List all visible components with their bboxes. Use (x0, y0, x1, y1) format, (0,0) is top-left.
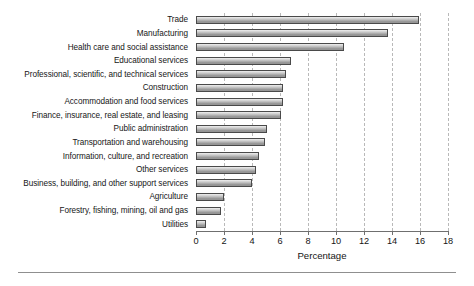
category-label: Public administration (114, 124, 189, 133)
category-label: Utilities (162, 220, 188, 229)
category-axis-labels: TradeManufacturingHealth care and social… (0, 13, 192, 231)
bar (196, 193, 224, 201)
category-label: Information, culture, and recreation (63, 152, 188, 161)
x-tick-label: 10 (324, 236, 348, 247)
category-label: Forestry, fishing, mining, oil and gas (59, 206, 188, 215)
category-label: Finance, insurance, real estate, and lea… (32, 111, 188, 120)
gridline (364, 13, 365, 231)
bar (196, 207, 221, 215)
category-label: Health care and social assistance (68, 43, 188, 52)
category-label: Construction (143, 83, 188, 92)
bar (196, 98, 283, 106)
x-tick-label: 18 (436, 236, 460, 247)
bar (196, 152, 259, 160)
x-tick (280, 231, 281, 235)
category-label: Manufacturing (137, 29, 188, 38)
category-label: Accommodation and food services (64, 97, 188, 106)
category-label: Trade (167, 15, 188, 24)
x-tick-label: 16 (408, 236, 432, 247)
x-tick (224, 231, 225, 235)
gridline (420, 13, 421, 231)
category-label: Transportation and warehousing (72, 138, 188, 147)
x-tick-label: 6 (268, 236, 292, 247)
x-tick (420, 231, 421, 235)
bar (196, 70, 286, 78)
x-tick-label: 0 (184, 236, 208, 247)
x-tick (336, 231, 337, 235)
x-tick-label: 2 (212, 236, 236, 247)
bar (196, 29, 388, 37)
x-tick (196, 231, 197, 235)
category-label: Business, building, and other support se… (23, 179, 188, 188)
bar (196, 166, 256, 174)
x-tick (448, 231, 449, 235)
bottom-divider-rule (18, 272, 456, 273)
bar (196, 57, 291, 65)
bar (196, 138, 265, 146)
bar (196, 125, 267, 133)
bar (196, 43, 344, 51)
x-tick (364, 231, 365, 235)
x-tick (392, 231, 393, 235)
plot-area (196, 13, 448, 231)
category-label: Professional, scientific, and technical … (24, 70, 188, 79)
x-tick (252, 231, 253, 235)
bar (196, 84, 283, 92)
x-axis-title: Percentage (196, 250, 448, 261)
x-tick (308, 231, 309, 235)
bar (196, 16, 419, 24)
bar (196, 111, 281, 119)
gridline (392, 13, 393, 231)
x-tick-label: 4 (240, 236, 264, 247)
category-label: Other services (136, 165, 188, 174)
bar (196, 179, 252, 187)
x-tick-label: 14 (380, 236, 404, 247)
x-tick-label: 8 (296, 236, 320, 247)
x-tick-label: 12 (352, 236, 376, 247)
category-label: Agriculture (149, 192, 188, 201)
category-label: Educational services (114, 56, 188, 65)
bar-chart-figure: TradeManufacturingHealth care and social… (0, 0, 474, 286)
x-axis-line (196, 231, 448, 232)
gridline (448, 13, 449, 231)
bar (196, 220, 206, 228)
